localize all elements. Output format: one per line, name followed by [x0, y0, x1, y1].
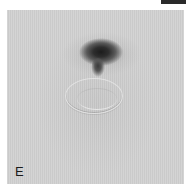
- dark-stained-tail: [91, 58, 105, 80]
- panel-label: E: [15, 165, 24, 178]
- inner-ring-structure: [77, 88, 117, 110]
- micrograph-panel: E: [7, 10, 184, 184]
- scale-bar: [161, 0, 186, 4]
